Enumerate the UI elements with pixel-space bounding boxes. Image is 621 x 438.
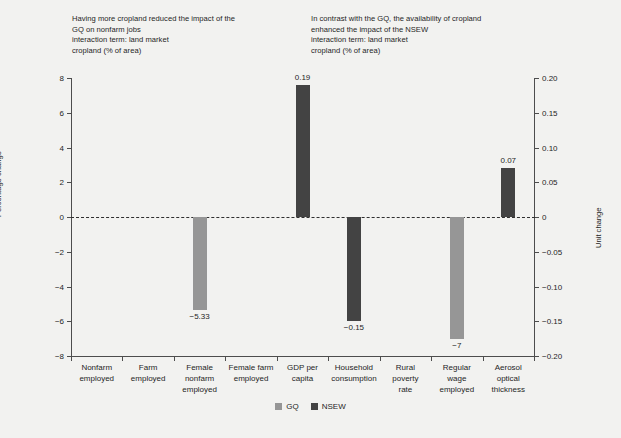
right-tick-label: −0.10 [542,282,562,291]
x-tick-mark [534,357,535,361]
x-tick-mark [328,357,329,361]
left-tick-label: 8 [40,74,64,83]
right-tick-label: −0.15 [542,317,562,326]
left-tick-label: −6 [40,317,64,326]
zero-reference-line [71,217,535,218]
bar-value-label: 0.19 [295,73,311,82]
right-tick-mark [535,287,539,288]
left-tick-label: −8 [40,352,64,361]
right-tick-label: −0.20 [542,352,562,361]
x-tick-mark [277,357,278,361]
bar-nsew-4 [296,85,310,217]
left-tick-label: 4 [40,143,64,152]
right-tick-mark [535,321,539,322]
x-tick-mark [174,357,175,361]
left-tick-label: −4 [40,282,64,291]
left-tick-label: −2 [40,247,64,256]
left-tick-mark [67,217,71,218]
bar-value-label: −7 [452,341,461,350]
left-tick-mark [67,287,71,288]
x-tick-mark [225,357,226,361]
right-tick-label: 0 [542,213,546,222]
x-tick-mark [380,357,381,361]
chart-legend: GQNSEW [0,402,621,411]
x-tick-mark [122,357,123,361]
right-tick-mark [535,148,539,149]
bar-value-label: −0.15 [344,323,364,332]
right-tick-mark [535,217,539,218]
bar-gq-2 [193,217,207,310]
bar-nsew-5 [347,217,361,321]
left-tick-mark [67,321,71,322]
right-tick-label: 0.20 [542,74,558,83]
right-axis-title: Unit change [594,207,603,248]
bar-gq-7 [450,217,464,339]
right-tick-label: 0.15 [542,108,558,117]
right-tick-label: 0.10 [542,143,558,152]
x-tick-mark [71,357,72,361]
category-label: Aerosol optical thickness [478,362,538,396]
left-tick-mark [67,113,71,114]
right-tick-mark [535,113,539,114]
left-tick-mark [67,182,71,183]
left-tick-label: 0 [40,213,64,222]
legend-swatch-icon [311,403,318,410]
annotation-left: Having more cropland reduced the impact … [72,14,307,56]
x-tick-mark [483,357,484,361]
legend-label: GQ [286,402,298,411]
x-tick-mark [431,357,432,361]
bar-nsew-8 [501,168,515,217]
annotation-right: In contrast with the GQ, the availabilit… [311,14,541,56]
bottom-axis-line [71,356,535,357]
legend-item-nsew[interactable]: NSEW [311,402,346,411]
left-axis-title: Percentage change [0,151,3,217]
chart-figure: Having more cropland reduced the impact … [0,0,621,438]
bar-value-label: −5.33 [189,312,209,321]
right-tick-mark [535,252,539,253]
left-tick-label: 2 [40,178,64,187]
right-tick-label: 0.05 [542,178,558,187]
legend-label: NSEW [322,402,346,411]
legend-item-gq[interactable]: GQ [275,402,298,411]
left-tick-mark [67,78,71,79]
legend-swatch-icon [275,403,282,410]
right-tick-label: −0.05 [542,247,562,256]
right-tick-mark [535,78,539,79]
left-tick-mark [67,148,71,149]
left-tick-label: 6 [40,108,64,117]
bar-value-label: 0.07 [500,156,516,165]
left-tick-mark [67,252,71,253]
right-tick-mark [535,182,539,183]
right-tick-mark [535,356,539,357]
